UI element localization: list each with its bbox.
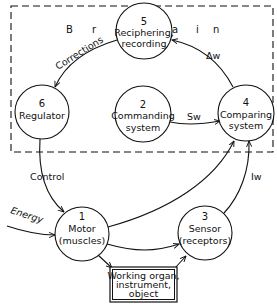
brain-letter-i: i — [196, 24, 199, 35]
svg-text:(muscles): (muscles) — [59, 235, 105, 246]
svg-text:Sensor: Sensor — [189, 223, 222, 234]
working-organ-box: Working organ, instrument, object — [107, 267, 179, 302]
svg-text:1: 1 — [79, 211, 85, 222]
edge-label-sw: Sw — [187, 111, 201, 122]
svg-text:Commanding: Commanding — [111, 110, 175, 121]
brain-letter-n: n — [213, 24, 219, 35]
edge-motor-to-organ — [98, 255, 112, 268]
edge-energy — [7, 226, 55, 235]
svg-text:Regulator: Regulator — [19, 110, 65, 121]
node-3-sensor: 3 Sensor (receptors) — [178, 206, 232, 260]
node-5-reciphering: 5 Reciphering, recording — [114, 3, 173, 59]
edge-organ-to-sensor — [175, 256, 186, 268]
edge-label-delta-w: Δw — [206, 50, 220, 61]
svg-text:Reciphering,: Reciphering, — [114, 27, 173, 38]
svg-text:system: system — [229, 120, 263, 131]
edge-delta-w — [172, 40, 233, 87]
edge-motor-to-sensor — [107, 244, 179, 250]
node-4-comparing-system: 4 Comparing system — [218, 85, 274, 141]
svg-text:2: 2 — [140, 99, 146, 110]
svg-text:4: 4 — [243, 97, 249, 108]
svg-text:6: 6 — [39, 98, 45, 109]
svg-text:object: object — [129, 288, 159, 299]
brain-letter-r: r — [92, 24, 97, 35]
svg-text:recording: recording — [121, 38, 166, 49]
edge-label-energy: Energy — [9, 204, 45, 225]
svg-text:system: system — [126, 122, 160, 133]
svg-text:Comparing: Comparing — [220, 109, 272, 120]
brain-letter-b: B — [66, 24, 73, 35]
control-loop-diagram: B r a i n Corrections Δw Sw Control Ener… — [0, 0, 277, 307]
edge-label-corrections: Corrections — [53, 34, 105, 72]
node-1-motor: 1 Motor (muscles) — [55, 207, 109, 261]
node-6-regulator: 6 Regulator — [15, 85, 69, 139]
edge-label-iw: Iw — [251, 171, 262, 182]
svg-text:Motor: Motor — [68, 223, 96, 234]
node-2-commanding-system: 2 Commanding system — [111, 86, 175, 142]
svg-text:3: 3 — [202, 211, 208, 222]
svg-text:(receptors): (receptors) — [179, 235, 231, 246]
svg-text:5: 5 — [141, 16, 147, 27]
edge-label-control: Control — [30, 171, 64, 182]
